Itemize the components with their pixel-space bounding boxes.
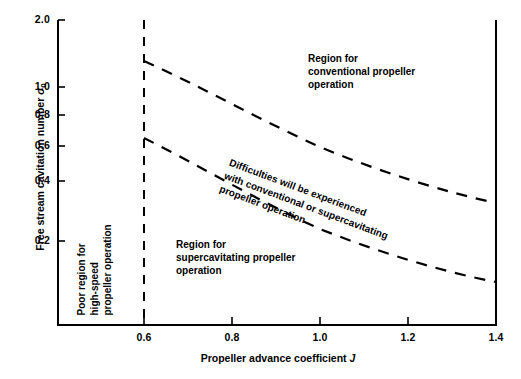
x-axis-title-symbol: J (349, 352, 355, 364)
annotation-poor-region: Poor region for high-speed propeller ope… (75, 116, 114, 316)
x-axis-title: Propeller advance coefficient J (148, 352, 408, 364)
y-axis-ticks (58, 20, 65, 241)
annotation-conventional-region: Region for conventional propeller operat… (308, 52, 415, 91)
figure-container: 2.0 1.0 0.8 0.6 0.4 0.2 0.6 0.8 1.0 1.2 … (0, 0, 521, 379)
y-axis-title-text: Free stream cavitation number (34, 95, 46, 251)
x-tick-label-1-2: 1.2 (388, 331, 428, 343)
x-axis-title-text: Propeller advance coefficient (201, 352, 350, 364)
annotation-supercavitating-region: Region for supercavitating propeller ope… (176, 238, 295, 277)
x-axis-ticks (144, 317, 496, 325)
x-tick-label-0-6: 0.6 (124, 331, 164, 343)
x-tick-label-0-8: 0.8 (212, 331, 252, 343)
y-axis-title-symbol: σ (34, 88, 46, 95)
y-axis-title-subscript: 0 (39, 83, 48, 87)
y-tick-label-2-0: 2.0 (16, 13, 50, 25)
x-tick-label-1-0: 1.0 (300, 331, 340, 343)
y-axis-title: Free stream cavitation number σ0 (34, 52, 48, 282)
x-tick-label-1-4: 1.4 (476, 331, 516, 343)
